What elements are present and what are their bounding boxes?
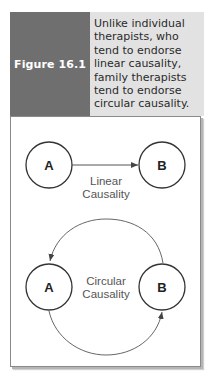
circular-top-arrow-icon bbox=[50, 219, 163, 263]
linear-label-line2: Causality bbox=[82, 188, 130, 200]
circular-causality-group: A B Circular Causality bbox=[26, 219, 185, 355]
circular-label-line1: Circular bbox=[86, 275, 126, 287]
linear-node-b-label: B bbox=[157, 158, 166, 173]
linear-causality-group: A B Linear Causality bbox=[26, 142, 185, 200]
diagram-drawing: A B Linear Causality A B Circular Causal… bbox=[0, 0, 215, 376]
circular-bottom-arrow-icon bbox=[49, 311, 162, 355]
circular-node-b-label: B bbox=[157, 280, 166, 295]
linear-node-a-label: A bbox=[44, 158, 54, 173]
circular-label-line2: Causality bbox=[82, 288, 130, 300]
circular-node-a-label: A bbox=[44, 280, 54, 295]
linear-label-line1: Linear bbox=[90, 175, 122, 187]
